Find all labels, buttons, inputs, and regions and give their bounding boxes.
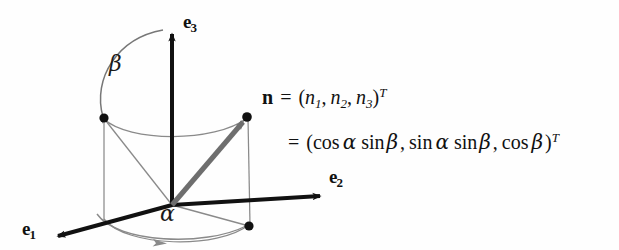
equation-separator-2a: , <box>400 131 405 153</box>
equation-lhs-vector-n: n <box>262 86 273 108</box>
angle-label-beta: β <box>109 53 122 75</box>
equation-line-2: =(cosαsinβ,sinαsinβ,cosβ)T <box>262 121 559 159</box>
equation-separator-1a: , <box>322 86 327 108</box>
equation-separator-2b: , <box>493 131 498 153</box>
point-ground-dot <box>244 221 253 230</box>
equation-term1-arg2: β <box>386 130 398 154</box>
axis-label-e1-subscript: 1 <box>29 227 36 242</box>
point-left-dot <box>99 113 108 122</box>
equation-line-1: n=(n1,n2,n3)T <box>262 76 559 121</box>
axis-label-e3: e3 <box>183 12 197 34</box>
n-vector-arrow <box>172 122 243 205</box>
equation-subscript-1: 1 <box>315 96 322 111</box>
angle-label-alpha: α <box>160 203 175 225</box>
axis-label-e2-subscript: 2 <box>336 175 343 190</box>
equation-term3-fn1: cos <box>502 131 529 153</box>
equation-term2-arg2: β <box>479 130 491 154</box>
axis-label-e2: e2 <box>329 167 343 189</box>
top-ellipse-arc <box>104 118 247 137</box>
equation-term1-fn1: cos <box>313 131 340 153</box>
equation-component-n3: n <box>356 86 366 108</box>
equation-component-n1: n <box>305 86 315 108</box>
origin-to-ground-dot-line <box>172 205 249 226</box>
alpha-arc-arrowhead <box>153 239 167 247</box>
equation-equals-2: = <box>288 131 299 153</box>
equation-term1-arg1: α <box>343 130 357 154</box>
equation-term1-fn2: sin <box>361 131 384 153</box>
bottom-ellipse-arc <box>104 219 250 242</box>
equation-term3-arg1: β <box>531 130 543 154</box>
right-vertical-guide <box>248 118 250 225</box>
point-n-tip-dot <box>242 112 252 122</box>
spherical-coordinates-figure: e3 e1 e2 β α n=(n1,n2,n3)T =(cosαsinβ,si… <box>0 0 619 250</box>
equation-transpose-2: T <box>552 130 559 145</box>
equation-transpose-1: T <box>379 85 386 100</box>
equation-equals-1: = <box>280 86 291 108</box>
equation-term2-fn1: sin <box>409 131 432 153</box>
equation-separator-1b: , <box>347 86 352 108</box>
equation-block: n=(n1,n2,n3)T =(cosαsinβ,sinαsinβ,cosβ)T <box>262 76 559 159</box>
e2-axis-arrow <box>172 196 320 205</box>
equation-component-n2: n <box>331 86 341 108</box>
axis-label-e1: e1 <box>22 219 36 241</box>
axis-label-e3-subscript: 3 <box>190 20 197 35</box>
equation-term2-fn2: sin <box>454 131 477 153</box>
equation-open-paren-2: ( <box>306 131 313 153</box>
equation-term2-arg1: α <box>435 130 449 154</box>
equation-close-paren-2: ) <box>545 131 552 153</box>
e1-axis-arrow <box>58 205 172 236</box>
